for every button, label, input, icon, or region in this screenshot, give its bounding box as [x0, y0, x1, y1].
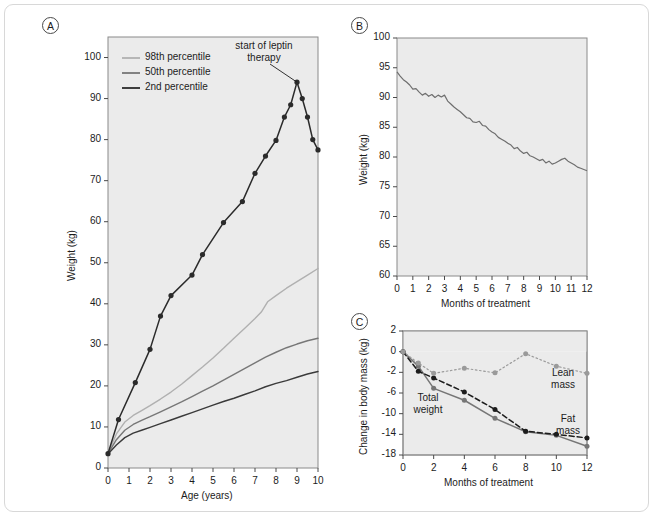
legend-entry-3: 2nd percentile	[145, 81, 208, 92]
fat-mass-line-1: Fat	[561, 413, 575, 424]
tick-label: 40	[68, 297, 101, 308]
lean-mass-line-2: mass	[551, 379, 575, 390]
lean-mass-line-1: Lean	[552, 367, 574, 378]
tick-label: 2	[422, 462, 446, 473]
tick-label: -18	[363, 448, 396, 459]
tick-label: 12	[575, 462, 599, 473]
tick-label: 70	[68, 174, 101, 185]
fat-mass-line-2: mass	[556, 425, 580, 436]
tick-label: 6	[483, 462, 507, 473]
legend-entry-2: 50th percentile	[145, 66, 211, 77]
tick-label: 80	[68, 133, 101, 144]
total-weight-line-1: Total	[417, 392, 438, 403]
tick-label: 50	[68, 256, 101, 267]
tick-label: -14	[363, 427, 396, 438]
tick-label: 100	[68, 51, 101, 62]
tick-label: 90	[357, 91, 390, 102]
figure-root: A Weight (kg) Age (years) start of lepti…	[0, 0, 655, 522]
tick-label: 85	[357, 120, 390, 131]
tick-label: 10	[306, 475, 330, 486]
legend-entry-1: 98th percentile	[145, 51, 211, 62]
tick-label: 0	[68, 461, 101, 472]
panel-a-annotation: start of leptin therapy	[219, 40, 309, 64]
tick-label: 65	[357, 239, 390, 250]
tick-label: 100	[357, 31, 390, 42]
tick-label: 60	[357, 269, 390, 280]
tick-label: 0	[363, 345, 396, 356]
series-label-total-weight: Total weight	[400, 392, 456, 416]
tick-label: 2	[363, 324, 396, 335]
panel-a-x-axis-title: Age (years)	[181, 490, 233, 501]
tick-label: -2	[363, 365, 396, 376]
tick-label: 80	[357, 150, 390, 161]
tick-label: 8	[514, 462, 538, 473]
series-label-fat-mass: Fat mass	[547, 413, 589, 437]
tick-label: 75	[357, 180, 390, 191]
tick-label: 90	[68, 92, 101, 103]
tick-label: 30	[68, 338, 101, 349]
series-label-lean-mass: Lean mass	[542, 367, 584, 391]
tick-label: 10	[544, 462, 568, 473]
tick-label: 20	[68, 379, 101, 390]
annotation-line-2: therapy	[247, 52, 280, 63]
panel-c-x-axis-title: Months of treatment	[444, 477, 533, 488]
tick-label: -10	[363, 407, 396, 418]
tick-label: 70	[357, 210, 390, 221]
annotation-line-1: start of leptin	[235, 40, 292, 51]
tick-label: 10	[68, 420, 101, 431]
tick-label: 4	[452, 462, 476, 473]
total-weight-line-2: weight	[414, 404, 443, 415]
tick-label: 12	[575, 283, 599, 294]
tick-label: 0	[391, 462, 415, 473]
tick-label: -6	[363, 386, 396, 397]
tick-label: 60	[68, 215, 101, 226]
tick-label: 95	[357, 61, 390, 72]
